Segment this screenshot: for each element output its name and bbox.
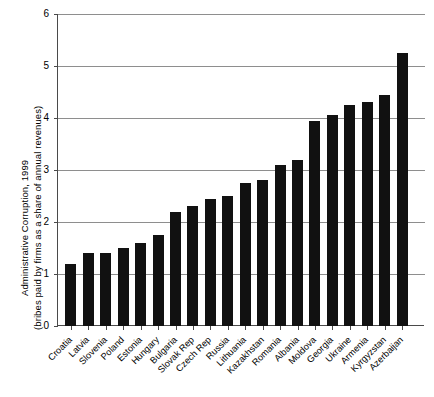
bar-chart-figure: Administrative Corruption, 1999 (bribes …	[0, 0, 434, 397]
x-axis-tick-labels: CroatiaLatviaSloveniaPolandEstoniaHungar…	[0, 0, 434, 397]
